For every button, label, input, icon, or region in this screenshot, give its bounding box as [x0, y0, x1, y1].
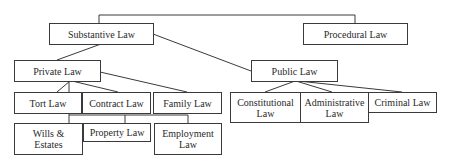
node-public-law: Public Law	[251, 60, 338, 82]
node-criminal-law: Criminal Law	[368, 92, 437, 113]
node-tort-law: Tort Law	[14, 92, 82, 114]
node-wills-estates: Wills & Estates	[14, 123, 83, 155]
node-private-law: Private Law	[14, 60, 101, 82]
node-substantive-law: Substantive Law	[49, 23, 154, 45]
node-contract-law: Contract Law	[82, 92, 151, 114]
node-employment-law: Employment Law	[154, 123, 222, 155]
node-administrative-law: Administrative Law	[300, 92, 369, 123]
node-family-law: Family Law	[153, 92, 222, 114]
node-property-law: Property Law	[83, 123, 151, 142]
node-constitutional-law: Constitutional Law	[230, 92, 301, 123]
node-procedural-law: Procedural Law	[303, 23, 408, 45]
